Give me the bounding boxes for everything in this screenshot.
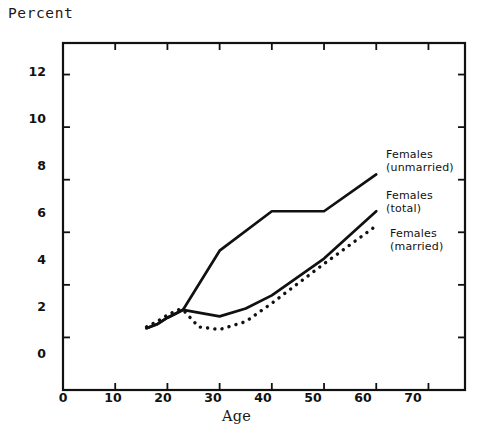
plot-canvas — [0, 0, 488, 442]
data-curves — [147, 174, 377, 329]
series-line-unmarried — [147, 174, 377, 328]
chart-figure: Percent 12 10 8 6 4 2 0 0 10 20 30 40 50… — [0, 0, 488, 442]
